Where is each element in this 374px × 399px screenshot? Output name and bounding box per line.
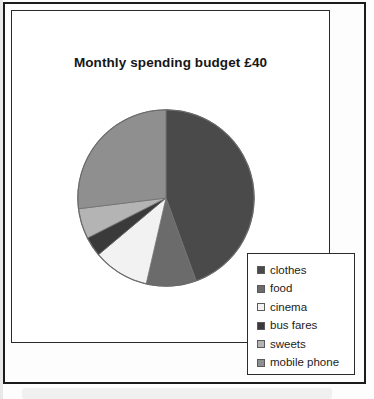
legend-label: sweets bbox=[270, 338, 306, 351]
legend-item-cinema[interactable]: cinema bbox=[257, 298, 354, 316]
legend-swatch-icon bbox=[257, 322, 265, 330]
legend-item-bus-fares[interactable]: bus fares bbox=[257, 317, 354, 335]
pie-slice-mobile-phone bbox=[78, 110, 166, 209]
legend-item-sweets[interactable]: sweets bbox=[257, 335, 354, 353]
chart-title: Monthly spending budget £40 bbox=[11, 55, 330, 70]
pie-chart bbox=[77, 109, 255, 287]
legend-label: bus fares bbox=[270, 319, 317, 332]
pie-chart-svg bbox=[77, 109, 255, 287]
chart-legend: clothes food cinema bus fares sweets mob… bbox=[247, 253, 355, 375]
legend-label: food bbox=[270, 282, 292, 295]
legend-label: cinema bbox=[270, 301, 307, 314]
pie-slice-group bbox=[78, 110, 254, 286]
legend-item-mobile-phone[interactable]: mobile phone bbox=[257, 354, 354, 372]
legend-swatch-icon bbox=[257, 359, 265, 367]
page-bottom-strip bbox=[22, 388, 332, 399]
legend-label: mobile phone bbox=[270, 356, 339, 369]
legend-label: clothes bbox=[270, 264, 306, 277]
legend-swatch-icon bbox=[257, 340, 265, 348]
scanned-page: Monthly spending budget £40 clothes food… bbox=[0, 0, 374, 399]
legend-swatch-icon bbox=[257, 266, 265, 274]
legend-item-clothes[interactable]: clothes bbox=[257, 261, 354, 279]
legend-swatch-icon bbox=[257, 285, 265, 293]
legend-swatch-icon bbox=[257, 303, 265, 311]
legend-item-food[interactable]: food bbox=[257, 280, 354, 298]
